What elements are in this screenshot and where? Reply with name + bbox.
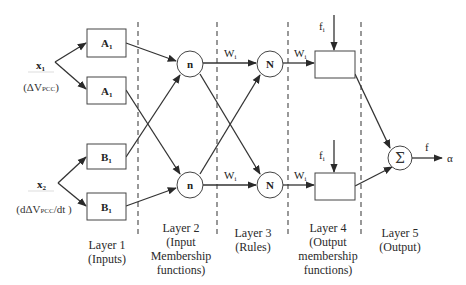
weight-label-l3l4-bottom: Wi	[294, 169, 306, 183]
node-omf-top	[315, 51, 355, 78]
layer3-nodes	[257, 51, 283, 198]
layer2-title: Layer 2	[148, 221, 214, 235]
N-bottom-label: N	[266, 179, 274, 191]
layer4-desc-3: functions)	[296, 263, 360, 277]
layer1-caption: Layer 1 (Inputs)	[82, 238, 132, 266]
layer4-desc-2: membership	[296, 249, 360, 263]
layer4-nodes	[315, 51, 355, 200]
layer2-caption: Layer 2 (Input Membership functions)	[148, 221, 214, 277]
layer3-desc: (Rules)	[226, 240, 280, 254]
layer1-nodes	[87, 29, 126, 220]
layer2-nodes	[177, 51, 203, 198]
weight-label-l2l3-top: Wi	[224, 47, 236, 61]
n-bottom-label: n	[187, 179, 193, 191]
input-x2-label: x2	[37, 178, 47, 192]
layer4-desc-1: (Output	[296, 235, 360, 249]
output-alpha-label: α	[447, 152, 453, 164]
n-top-label: n	[187, 58, 193, 70]
layer4-caption: Layer 4 (Output membership functions)	[296, 221, 360, 277]
weight-label-l3l4-top: Wi	[294, 47, 306, 61]
layer1-title: Layer 1	[82, 238, 132, 252]
layer2-desc-1: (Input	[148, 235, 214, 249]
fi-label-top: fi	[319, 20, 325, 34]
layer5-caption: Layer 5 (Output)	[372, 226, 428, 254]
input-x1-label: x1	[36, 59, 46, 73]
layer2-desc-2: Membership	[148, 249, 214, 263]
layer5-title: Layer 5	[372, 226, 428, 240]
layer3-title: Layer 3	[226, 226, 280, 240]
layer4-title: Layer 4	[296, 221, 360, 235]
layer3-caption: Layer 3 (Rules)	[226, 226, 280, 254]
N-top-label: N	[266, 58, 274, 70]
output-f-label: f	[425, 141, 429, 153]
weight-label-l2l3-bottom: Wi	[224, 169, 236, 183]
layer2-desc-3: functions)	[148, 263, 214, 277]
fi-label-bottom: fi	[319, 149, 325, 163]
layer1-desc: (Inputs)	[82, 252, 132, 266]
sum-label: Σ	[395, 150, 405, 166]
input-x1-desc: (ΔVPCC)	[23, 81, 59, 94]
input-x2-desc: (dΔVPCC/dt )	[16, 203, 72, 216]
node-omf-bottom	[315, 173, 355, 200]
layer5-desc: (Output)	[372, 240, 428, 254]
